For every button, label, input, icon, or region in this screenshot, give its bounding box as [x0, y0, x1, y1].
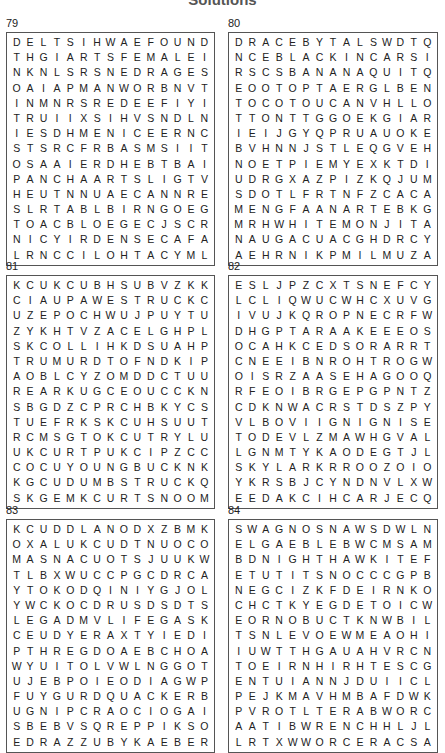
- grid-letter: I: [157, 628, 170, 643]
- grid-letter: B: [299, 354, 312, 369]
- grid-letter: J: [394, 172, 407, 187]
- grid-letter: K: [23, 339, 36, 354]
- grid-letter: A: [299, 50, 312, 65]
- grid-letter: K: [50, 598, 63, 613]
- grid-letter: N: [157, 187, 170, 202]
- grid-letter: A: [353, 65, 366, 80]
- grid-letter: D: [394, 689, 407, 704]
- grid-letter: U: [50, 460, 63, 475]
- grid-letter: A: [380, 735, 393, 750]
- grid-letter: T: [299, 111, 312, 126]
- grid-letter: P: [50, 308, 63, 323]
- grid-letter: I: [421, 628, 434, 643]
- grid-letter: C: [77, 598, 90, 613]
- grid-letter: E: [407, 141, 420, 156]
- grid-letter: S: [10, 141, 23, 156]
- grid-letter: U: [380, 65, 393, 80]
- grid-letter: N: [245, 674, 258, 689]
- grid-letter: C: [10, 460, 23, 475]
- grid-letter: C: [37, 232, 50, 247]
- grid-letter: T: [313, 81, 326, 96]
- grid-letter: K: [184, 552, 197, 567]
- grid-row: KGCUDUMBSTRUCKQ: [10, 475, 211, 490]
- grid-letter: C: [198, 293, 211, 308]
- grid-letter: C: [299, 339, 312, 354]
- grid-letter: P: [272, 324, 285, 339]
- grid-letter: D: [131, 369, 144, 384]
- grid-letter: S: [407, 415, 420, 430]
- grid-letter: F: [407, 308, 420, 323]
- grid-letter: D: [90, 354, 103, 369]
- grid-letter: R: [144, 65, 157, 80]
- grid-letter: Q: [286, 293, 299, 308]
- grid-letter: C: [407, 278, 420, 293]
- grid-row: BVHNNJSTLEQGVEH: [232, 141, 434, 156]
- grid-letter: N: [421, 81, 434, 96]
- grid-letter: R: [299, 460, 312, 475]
- grid-letter: O: [232, 369, 245, 384]
- grid-letter: R: [131, 202, 144, 217]
- grid-letter: V: [104, 659, 117, 674]
- grid-letter: E: [144, 613, 157, 628]
- grid-letter: Z: [299, 278, 312, 293]
- grid-letter: W: [421, 598, 434, 613]
- grid-letter: A: [367, 126, 380, 141]
- grid-letter: X: [380, 293, 393, 308]
- grid-letter: S: [64, 35, 77, 50]
- grid-letter: Y: [77, 369, 90, 384]
- grid-letter: O: [259, 111, 272, 126]
- grid-letter: U: [10, 445, 23, 460]
- grid-letter: S: [90, 111, 103, 126]
- grid-letter: D: [64, 522, 77, 537]
- grid-letter: D: [50, 522, 63, 537]
- grid-letter: T: [198, 659, 211, 674]
- grid-letter: K: [10, 475, 23, 490]
- grid-letter: Y: [23, 659, 36, 674]
- grid-letter: A: [50, 613, 63, 628]
- grid-letter: S: [272, 475, 285, 490]
- grid-letter: I: [380, 674, 393, 689]
- grid-letter: P: [184, 324, 197, 339]
- grid-letter: U: [157, 308, 170, 323]
- grid-letter: P: [10, 644, 23, 659]
- grid-letter: U: [50, 475, 63, 490]
- grid-letter: D: [50, 400, 63, 415]
- grid-letter: L: [104, 613, 117, 628]
- grid-letter: W: [286, 735, 299, 750]
- grid-letter: O: [299, 522, 312, 537]
- grid-letter: L: [299, 704, 312, 719]
- grid-letter: S: [131, 141, 144, 156]
- grid-row: SKCOLLIHKDSUAHP: [10, 339, 211, 354]
- grid-letter: N: [272, 613, 285, 628]
- grid-letter: N: [340, 719, 353, 734]
- grid-letter: Y: [10, 598, 23, 613]
- grid-letter: I: [232, 126, 245, 141]
- grid-row: RCMSGTOKCUTRYLU: [10, 430, 211, 445]
- grid-letter: D: [380, 522, 393, 537]
- grid-letter: O: [245, 157, 258, 172]
- grid-letter: I: [272, 659, 285, 674]
- grid-letter: C: [232, 400, 245, 415]
- grid-letter: T: [245, 568, 258, 583]
- grid-letter: G: [157, 202, 170, 217]
- grid-letter: U: [157, 339, 170, 354]
- grid-letter: N: [394, 583, 407, 598]
- grid-letter: L: [259, 278, 272, 293]
- grid-letter: A: [64, 552, 77, 567]
- grid-letter: D: [198, 35, 211, 50]
- grid-letter: I: [353, 415, 366, 430]
- grid-letter: D: [117, 96, 130, 111]
- grid-letter: P: [10, 172, 23, 187]
- grid-letter: D: [245, 172, 258, 187]
- grid-letter: R: [157, 430, 170, 445]
- grid-letter: O: [104, 369, 117, 384]
- grid-letter: R: [367, 735, 380, 750]
- grid-letter: Y: [326, 475, 339, 490]
- grid-letter: Y: [64, 628, 77, 643]
- grid-letter: F: [286, 202, 299, 217]
- grid-letter: L: [299, 430, 312, 445]
- grid-letter: G: [421, 202, 434, 217]
- grid-letter: T: [117, 552, 130, 567]
- grid-letter: E: [326, 628, 339, 643]
- grid-letter: U: [232, 172, 245, 187]
